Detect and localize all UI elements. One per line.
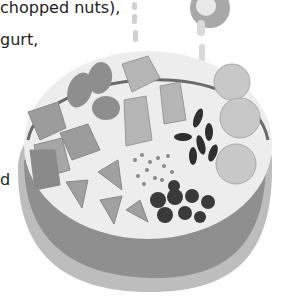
food-bowl-illustration (0, 0, 284, 296)
banana-slices (214, 64, 260, 184)
drops-icon (132, 2, 138, 42)
spoon-icon (190, 0, 230, 62)
